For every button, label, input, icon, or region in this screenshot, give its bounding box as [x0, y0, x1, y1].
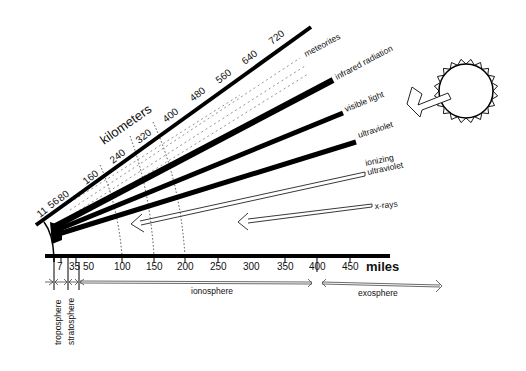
- label-infrared-radiation: infrared radiation: [333, 43, 394, 82]
- label-meteorites: meteorites: [302, 31, 342, 58]
- label-troposphere: troposphere: [53, 299, 63, 345]
- ray-ultraviolet: [52, 142, 356, 236]
- label-stratosphere: stratosphere: [66, 297, 76, 345]
- km-tick-480: 480: [187, 84, 207, 103]
- miles-tick-50: 50: [83, 261, 95, 272]
- miles-tick-150: 150: [146, 261, 163, 272]
- miles-tick-300: 300: [243, 261, 260, 272]
- miles-tick-350: 350: [277, 261, 294, 272]
- miles-tick-100: 100: [114, 261, 131, 272]
- label-exosphere: exosphere: [358, 288, 398, 298]
- miles-axis-title: miles: [366, 259, 399, 274]
- miles-tick-450: 450: [342, 261, 359, 272]
- miles-tick-35: 35: [69, 261, 81, 272]
- label-ultraviolet: ultraviolet: [357, 119, 395, 140]
- km-tick-720: 720: [266, 27, 286, 46]
- km-tick-160: 160: [80, 167, 100, 186]
- miles-tick-200: 200: [177, 261, 194, 272]
- miles-tick-7: 7: [57, 261, 63, 272]
- miles-tick-250: 250: [210, 261, 227, 272]
- miles-ticks: [54, 256, 350, 290]
- miles-tick-labels: 7 35 50 100 150 200 250 300 350 400 450: [57, 261, 359, 272]
- sun-icon: [434, 59, 497, 122]
- label-x-rays: x-rays: [374, 199, 398, 211]
- miles-tick-400: 400: [309, 261, 326, 272]
- km-axis: [36, 27, 311, 225]
- label-ionosphere: ionosphere: [191, 286, 233, 296]
- atmosphere-diagram: 11 56 80 160 240 320 400 480 560 640 720…: [0, 0, 526, 371]
- label-visible-light: visible light: [343, 89, 386, 114]
- ray-x-rays: [238, 204, 372, 230]
